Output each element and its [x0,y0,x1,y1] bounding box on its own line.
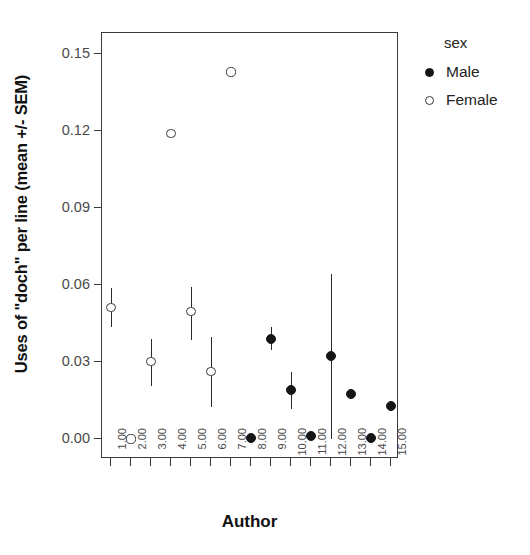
plot-area [101,32,398,458]
data-point-male [266,334,276,344]
y-axis-title: Uses of "doch" per line (mean +/- SEM) [12,24,31,424]
y-axis-title-container: Uses of "doch" per line (mean +/- SEM) [0,0,44,470]
legend-marker-icon [418,68,440,77]
legend-items: MaleFemale [418,59,526,113]
x-axis-tick: 14.00 [370,458,371,466]
data-point-female [146,357,155,366]
x-axis-tick-label: 4.00 [176,428,188,468]
legend-item-male[interactable]: Male [418,59,526,85]
chart-figure: Uses of "doch" per line (mean +/- SEM) 0… [0,0,530,555]
open-circle-icon [425,96,434,105]
x-axis-tick-label: 11.00 [316,428,328,468]
x-axis-tick: 13.00 [350,458,351,466]
x-axis-tick: 3.00 [150,458,151,466]
filled-circle-icon [425,68,434,77]
legend-item-label: Female [446,91,498,109]
x-axis-tick: 10.00 [290,458,291,466]
data-point-male [286,385,296,395]
x-axis-tick-label: 5.00 [196,428,208,468]
data-point-female [166,129,175,138]
y-axis-tick-label: 0.15 [62,45,94,61]
legend-item-label: Male [446,63,480,81]
x-axis-tick-label: 15.00 [396,428,408,468]
x-axis-tick: 7.00 [230,458,231,466]
data-point-female [186,307,195,316]
data-point-female [226,67,235,76]
x-axis-tick: 1.00 [110,458,111,466]
legend-title: sex [444,34,526,51]
legend-marker-icon [418,96,440,105]
data-layer [102,33,397,457]
y-axis-tick-label: 0.03 [62,353,94,369]
x-axis-tick-label: 2.00 [136,428,148,468]
legend: sex MaleFemale [418,34,526,115]
x-axis-tick: 12.00 [330,458,331,466]
x-axis-tick-label: 8.00 [256,428,268,468]
data-point-female [106,303,115,312]
x-axis-tick-label: 10.00 [296,428,308,468]
y-axis-tick-label: 0.09 [62,199,94,215]
x-axis-tick-label: 1.00 [116,428,128,468]
x-axis-tick: 6.00 [210,458,211,466]
x-axis-tick: 4.00 [170,458,171,466]
data-point-male [346,389,356,399]
data-point-male [326,351,336,361]
x-axis-tick: 8.00 [250,458,251,466]
x-axis-tick-label: 9.00 [276,428,288,468]
x-axis-tick-label: 14.00 [376,428,388,468]
x-axis-tick: 11.00 [310,458,311,466]
legend-item-female[interactable]: Female [418,87,526,113]
x-axis-tick-label: 13.00 [356,428,368,468]
y-axis-tick-label: 0.06 [62,276,94,292]
x-axis-tick: 5.00 [190,458,191,466]
x-axis-title: Author [101,512,398,532]
x-axis-tick-label: 12.00 [336,428,348,468]
x-axis-tick: 2.00 [130,458,131,466]
y-axis-tick-label: 0.12 [62,122,94,138]
x-axis-tick: 15.00 [390,458,391,466]
x-axis-tick-label: 7.00 [236,428,248,468]
data-point-female [206,367,215,376]
data-point-male [386,401,396,411]
y-axis-tick-label: 0.00 [62,430,94,446]
x-axis-tick-label: 3.00 [156,428,168,468]
x-axis-tick-label: 6.00 [216,428,228,468]
x-axis-tick: 9.00 [270,458,271,466]
